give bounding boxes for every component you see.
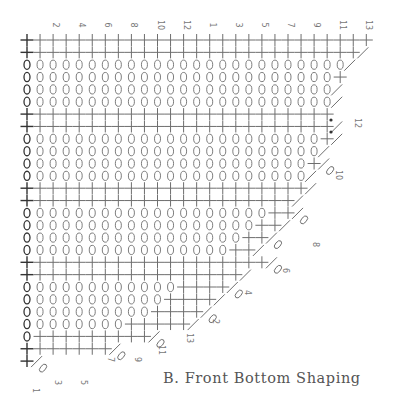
chart-row [21, 46, 369, 58]
single-crochet-symbol [47, 34, 60, 46]
column-label: 4 [77, 22, 86, 27]
chain-symbol [128, 208, 134, 217]
chain-symbol [298, 134, 304, 143]
chart-row [24, 293, 225, 305]
single-crochet-symbol [229, 182, 242, 194]
chain-symbol [24, 233, 30, 242]
chart-row [24, 97, 342, 108]
chain-symbol [259, 60, 265, 69]
chain-symbol [102, 85, 108, 94]
chain-symbol [24, 307, 30, 316]
chain-symbol [207, 245, 213, 254]
column-label: 11 [338, 20, 347, 30]
chain-symbol [272, 171, 278, 180]
chain-symbol [311, 147, 317, 156]
chain-symbol [181, 208, 187, 217]
chain-symbol [220, 171, 226, 180]
chain-symbol [128, 85, 134, 94]
single-crochet-symbol [268, 219, 281, 231]
single-crochet-symbol [190, 281, 203, 293]
single-crochet-symbol [321, 133, 334, 145]
single-crochet-symbol [34, 269, 47, 281]
row-label: 4 [243, 290, 252, 295]
single-crochet-symbol [255, 219, 268, 231]
chain-symbol [115, 171, 121, 180]
chain-symbol [155, 233, 161, 242]
chain-symbol [233, 134, 239, 143]
single-crochet-symbol [34, 330, 47, 342]
chain-symbol [155, 282, 161, 291]
single-crochet-symbol [268, 108, 281, 120]
chain-symbol [141, 282, 147, 291]
chain-symbol [155, 171, 161, 180]
single-crochet-symbol [47, 46, 60, 58]
chain-symbol [181, 245, 187, 254]
chain-symbol [128, 60, 134, 69]
single-crochet-symbol [60, 182, 73, 194]
single-crochet-symbol [282, 195, 295, 207]
column-label: 10 [156, 20, 165, 30]
single-crochet-symbol [138, 46, 151, 58]
single-crochet-symbol [295, 46, 308, 58]
chain-symbol [89, 233, 95, 242]
chain-symbol [63, 282, 69, 291]
single-crochet-symbol [203, 195, 216, 207]
single-crochet-symbol [47, 108, 60, 120]
single-crochet-symbol [229, 256, 242, 268]
single-crochet-symbol [242, 232, 255, 244]
single-crochet-symbol [321, 108, 334, 120]
chain-symbol [220, 245, 226, 254]
chain-symbol [24, 319, 30, 328]
chart-row [21, 182, 317, 194]
chain-symbol [115, 147, 121, 156]
chain-symbol [168, 221, 174, 230]
single-crochet-symbol [112, 108, 125, 120]
chain-symbol [76, 159, 82, 168]
single-crochet-symbol [21, 343, 34, 355]
chain-symbol [102, 159, 108, 168]
single-crochet-symbol [216, 46, 229, 58]
chain-symbol [155, 147, 161, 156]
chain-symbol [24, 282, 30, 291]
chain-symbol [233, 97, 239, 106]
chain-symbol [115, 72, 121, 81]
chain-symbol [141, 97, 147, 106]
single-crochet-symbol [151, 318, 164, 330]
chain-symbol [102, 233, 108, 242]
chain-symbol [298, 72, 304, 81]
chain-symbol [115, 307, 121, 316]
single-crochet-symbol [47, 120, 60, 132]
turning-chain-symbol [299, 215, 309, 225]
chain-symbol [63, 245, 69, 254]
column-label: 5 [260, 22, 269, 27]
chain-symbol [63, 147, 69, 156]
single-crochet-symbol [138, 269, 151, 281]
chart-row [21, 195, 304, 207]
single-crochet-symbol [347, 34, 360, 46]
single-crochet-symbol [125, 256, 138, 268]
chain-symbol [233, 60, 239, 69]
marker-dot [329, 118, 332, 121]
chain-symbol [220, 208, 226, 217]
single-crochet-symbol [242, 108, 255, 120]
single-crochet-symbol [138, 182, 151, 194]
chain-symbol [220, 97, 226, 106]
chain-symbol [50, 134, 56, 143]
single-crochet-symbol [34, 343, 47, 355]
single-crochet-symbol [190, 306, 203, 318]
single-crochet-symbol [73, 330, 86, 342]
single-crochet-symbol [86, 120, 99, 132]
single-crochet-symbol [112, 46, 125, 58]
chain-symbol [285, 171, 291, 180]
chain-symbol [89, 85, 95, 94]
chain-symbol [141, 85, 147, 94]
single-crochet-symbol [47, 269, 60, 281]
chain-symbol [141, 208, 147, 217]
single-crochet-symbol [268, 195, 281, 207]
chain-symbol [337, 60, 343, 69]
chain-symbol [37, 282, 43, 291]
single-crochet-symbol [73, 120, 86, 132]
chain-symbol [89, 60, 95, 69]
chain-symbol [324, 72, 330, 81]
chain-symbol [37, 60, 43, 69]
